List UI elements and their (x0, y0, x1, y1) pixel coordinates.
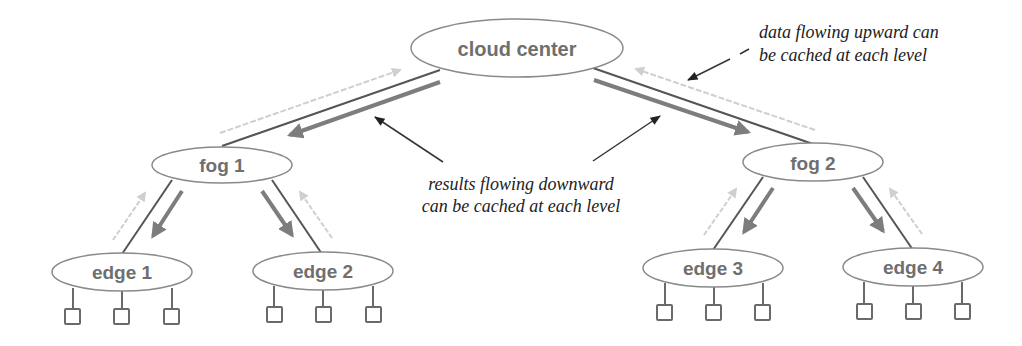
down-arrow-icon (853, 188, 883, 231)
node-label: edge 3 (683, 258, 743, 279)
node-edge-1: edge 1 (52, 253, 192, 291)
node-edge-3: edge 3 (643, 249, 783, 287)
annotation-text: data flowing upward can (759, 22, 939, 42)
device-icon (164, 309, 179, 324)
device-icon (316, 307, 331, 322)
annotation-pointer-icon (593, 116, 660, 161)
up-arrow-icon (113, 193, 145, 240)
node-label: edge 4 (883, 257, 944, 278)
node-cloud-center: cloud center (411, 19, 623, 77)
device-icon (755, 305, 770, 320)
annotation-pointer-icon (375, 117, 443, 162)
device-icon (657, 305, 672, 320)
link-fog1-edge2 (262, 180, 332, 254)
node-label: cloud center (458, 38, 577, 60)
device-icon (906, 304, 921, 319)
device-icon (114, 309, 129, 324)
node-label: edge 2 (293, 261, 353, 282)
edge4-devices (857, 282, 970, 319)
down-arrow-icon (262, 191, 292, 235)
link-fog2-edge3 (704, 177, 773, 250)
device-icon (267, 307, 282, 322)
up-arrow-icon (636, 69, 815, 130)
up-arrow-icon (220, 70, 400, 133)
device-icon (366, 307, 381, 322)
node-label: fog 2 (790, 153, 835, 174)
annotation-text: can be cached at each level (422, 196, 620, 216)
device-icon (65, 309, 80, 324)
annotation-upward: data flowing upward can be cached at eac… (688, 22, 939, 80)
device-icon (706, 305, 721, 320)
up-arrow-icon (300, 192, 332, 238)
device-icon (857, 304, 872, 319)
down-arrow-icon (153, 191, 182, 236)
link-fog2-edge4 (853, 177, 922, 250)
edge1-devices (65, 288, 179, 324)
caching-hierarchy-diagram: cloud center fog 1 fog 2 edge 1 edge 2 e… (0, 0, 1022, 346)
annotation-pointer-icon (688, 59, 730, 80)
device-icon (955, 304, 970, 319)
edge2-devices (267, 286, 381, 322)
link-cloud-fog2 (593, 68, 815, 144)
node-fog-1: fog 1 (152, 147, 292, 183)
annotation-text: be cached at each level (759, 45, 927, 65)
up-arrow-icon (890, 189, 922, 234)
node-label: edge 1 (92, 262, 153, 283)
node-fog-2: fog 2 (743, 143, 883, 181)
down-arrow-icon (744, 188, 773, 232)
node-edge-4: edge 4 (843, 248, 983, 286)
link-fog1-edge1 (113, 180, 182, 254)
annotation-pointer-icon (740, 49, 749, 54)
down-arrow-icon (290, 82, 440, 135)
up-arrow-icon (704, 189, 736, 235)
node-edge-2: edge 2 (253, 252, 393, 290)
node-label: fog 1 (199, 155, 245, 176)
annotation-text: results flowing downward (428, 174, 615, 194)
annotation-downward: results flowing downward can be cached a… (375, 116, 660, 216)
link-cloud-fog1 (220, 70, 440, 146)
down-arrow-icon (594, 80, 748, 132)
edge3-devices (657, 283, 770, 320)
